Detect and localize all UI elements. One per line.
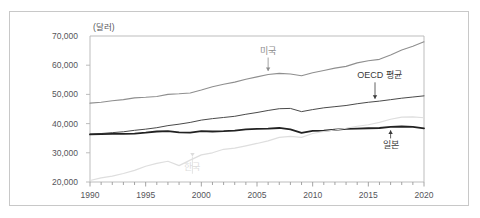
x-axis-tick-labels: 1990199520002005201020152020: [81, 190, 434, 200]
series-annotation-label-일본: 일본: [383, 140, 399, 150]
series-line-일본: [90, 127, 424, 135]
x-tick-label: 1990: [81, 190, 100, 200]
line-chart: 70,00060,00050,00040,00030,00020,000 199…: [0, 0, 480, 218]
y-axis-tick-labels: 70,00060,00050,00040,00030,00020,000: [52, 31, 90, 187]
plot-area-border: [90, 36, 424, 182]
y-axis-unit-label: (달러): [93, 22, 115, 32]
x-axis-ticks: [90, 182, 424, 187]
x-tick-label: 2000: [192, 190, 211, 200]
y-tick-label: 20,000: [52, 177, 78, 187]
chart-series-group: [90, 42, 424, 181]
y-tick-label: 70,000: [52, 31, 78, 41]
x-tick-label: 2020: [415, 190, 434, 200]
series-annotation-label-미국: 미국: [260, 46, 276, 56]
y-tick-label: 60,000: [52, 60, 78, 70]
annotation-arrow-한국: [190, 153, 194, 157]
series-annotation-label-OECD 평균: OECD 평균: [357, 70, 402, 80]
annotation-arrow-일본: [388, 130, 392, 134]
x-tick-label: 2010: [303, 190, 322, 200]
annotation-arrow-OECD 평균: [373, 95, 377, 99]
chart-axes: [90, 36, 424, 182]
x-tick-label: 2015: [359, 190, 378, 200]
x-tick-label: 2005: [248, 190, 267, 200]
y-tick-label: 50,000: [52, 89, 78, 99]
annotation-arrow-미국: [266, 67, 270, 71]
series-line-한국: [90, 117, 424, 181]
y-tick-label: 40,000: [52, 119, 78, 129]
y-tick-label: 30,000: [52, 148, 78, 158]
x-tick-label: 1995: [136, 190, 155, 200]
